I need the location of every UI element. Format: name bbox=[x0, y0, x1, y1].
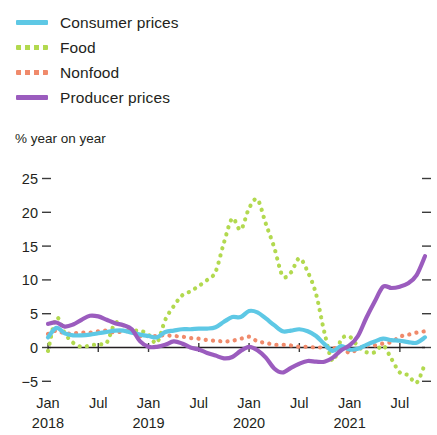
x-tick-label-year: 2018 bbox=[32, 415, 64, 431]
x-tick-label-year: 2020 bbox=[233, 415, 265, 431]
chart-page: Consumer prices Food Nonfood Producer pr… bbox=[0, 0, 437, 435]
y-tick-label: 5 bbox=[30, 306, 38, 322]
chart-svg: 2520151050−5 Jan2018JulJan2019JulJan2020… bbox=[0, 0, 437, 435]
x-tick-label-month: Jul bbox=[190, 395, 209, 411]
series-line-producer-prices bbox=[48, 256, 425, 372]
x-tick-label-year: 2021 bbox=[333, 415, 365, 431]
x-tick-label-month: Jan bbox=[338, 395, 361, 411]
y-tick-label: 15 bbox=[22, 239, 38, 255]
y-tick-label: 25 bbox=[22, 171, 38, 187]
x-tick-label-month: Jan bbox=[237, 395, 260, 411]
x-tick-label-month: Jul bbox=[89, 395, 108, 411]
chart-plot-area: 2520151050−5 Jan2018JulJan2019JulJan2020… bbox=[0, 0, 437, 435]
x-tick-label-month: Jul bbox=[391, 395, 410, 411]
y-tick-label: 20 bbox=[22, 205, 38, 221]
x-tick-label-month: Jan bbox=[137, 395, 160, 411]
y-axis-ticks-right bbox=[422, 179, 431, 382]
x-tick-label-month: Jul bbox=[290, 395, 309, 411]
x-tick-label-year: 2019 bbox=[132, 415, 164, 431]
y-tick-label: −5 bbox=[21, 374, 38, 390]
y-axis-ticks: 2520151050−5 bbox=[21, 171, 51, 390]
x-axis-labels: Jan2018JulJan2019JulJan2020JulJan2021Jul bbox=[32, 395, 409, 431]
y-tick-label: 0 bbox=[30, 340, 38, 356]
chart-series-group bbox=[48, 199, 425, 383]
x-tick-label-month: Jan bbox=[36, 395, 59, 411]
y-tick-label: 10 bbox=[22, 272, 38, 288]
